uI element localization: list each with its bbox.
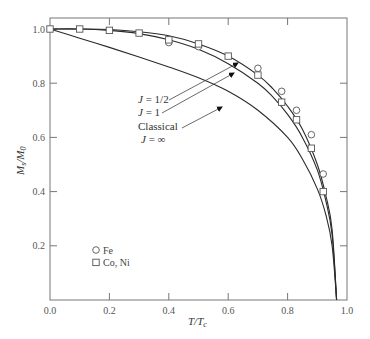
- legend-label-fe: Fe: [103, 245, 114, 256]
- legend-label-coni: Co, Ni: [103, 257, 130, 268]
- x-tick-label: 0.0: [44, 305, 57, 316]
- coni-data-point: [166, 37, 172, 43]
- fe-data-point: [255, 65, 262, 72]
- fe-data-point: [278, 88, 285, 95]
- annotation-j-half: J = 1/2: [138, 93, 169, 105]
- coni-data-point: [106, 27, 112, 33]
- x-tick-label: 0.6: [222, 305, 235, 316]
- y-tick-label: 0.8: [33, 78, 46, 89]
- coni-data-point: [195, 41, 201, 47]
- coni-data-point: [308, 145, 314, 151]
- coni-data-point: [225, 53, 231, 59]
- x-tick-label: 1.0: [341, 305, 354, 316]
- coni-data-point: [293, 117, 299, 123]
- coni-data-point: [77, 26, 83, 32]
- coni-data-point: [136, 30, 142, 36]
- x-tick-label: 0.8: [281, 305, 294, 316]
- y-tick-label: 1.0: [33, 24, 46, 35]
- x-tick-label: 0.2: [103, 305, 116, 316]
- x-axis-label: T/Tc: [188, 315, 207, 329]
- fe-data-point: [293, 107, 300, 114]
- coni-data-point: [278, 99, 284, 105]
- axis-ticks: 0.00.20.40.60.81.00.20.40.60.81.0: [33, 18, 354, 316]
- fe-data-point: [308, 131, 315, 138]
- legend: Fe Co, Ni: [93, 245, 130, 269]
- annotation-arrows: [162, 63, 238, 128]
- annotation-classical: Classical: [138, 120, 178, 132]
- legend-circle-icon: [93, 247, 100, 254]
- annotation-j-one: J = 1: [138, 106, 160, 118]
- coni-data-point: [320, 188, 326, 194]
- y-tick-label: 0.4: [33, 186, 46, 197]
- coni-data-point: [255, 72, 261, 78]
- y-tick-label: 0.6: [33, 132, 46, 143]
- y-tick-label: 0.2: [33, 240, 46, 251]
- coni-data-point: [47, 26, 53, 32]
- arrow-j-half: [169, 63, 238, 100]
- fe-data-point: [320, 171, 327, 178]
- legend-square-icon: [93, 259, 99, 265]
- annotation-j-inf: J = ∞: [141, 133, 166, 145]
- magnetization-chart: 0.00.20.40.60.81.00.20.40.60.81.0 J = 1/…: [0, 0, 370, 339]
- arrow-j-one: [162, 73, 234, 113]
- arrow-classical: [182, 107, 222, 128]
- y-axis-label: Ms/M0: [14, 146, 28, 176]
- x-tick-label: 0.4: [163, 305, 176, 316]
